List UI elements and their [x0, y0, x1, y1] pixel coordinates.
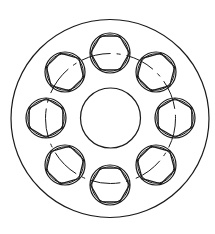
pocket-inner-circle [92, 35, 128, 71]
pocket-top [90, 33, 130, 73]
pocket-group [26, 33, 195, 205]
pocket-bottom [90, 165, 130, 205]
outer-circle [11, 20, 209, 218]
inner-bore-circle [81, 88, 141, 148]
plate-drawing [0, 0, 215, 234]
pocket-circle [90, 33, 130, 73]
pocket-inner-circle [138, 54, 174, 90]
diagram-canvas [0, 0, 215, 234]
pocket-top-right [136, 52, 176, 92]
pocket-circle [90, 165, 130, 205]
pocket-inner-circle [92, 167, 128, 203]
